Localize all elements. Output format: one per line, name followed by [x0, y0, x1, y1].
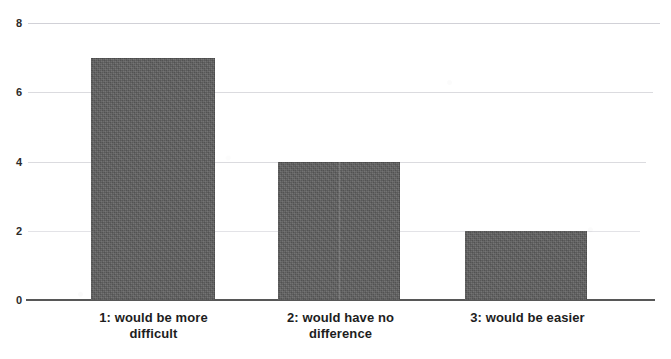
y-axis-tick-6: 6 — [6, 87, 22, 98]
y-axis-tick-0: 0 — [6, 295, 22, 306]
y-axis-tick-8: 8 — [6, 18, 22, 29]
bar-category-1 — [91, 58, 215, 300]
bar-chart: 8 6 4 2 0 1: would be more difficult 2: … — [0, 0, 671, 359]
y-axis-tick-4: 4 — [6, 157, 22, 168]
bar-category-2 — [278, 162, 400, 301]
x-axis-label-category-3-line-1: 3: would be easier — [470, 310, 585, 325]
x-axis-label-category-1-line-2: difficult — [66, 326, 241, 342]
x-axis-label-category-2: 2: would have no difference — [253, 310, 428, 342]
x-axis-label-category-3: 3: would be easier — [440, 310, 615, 326]
x-axis-label-category-1: 1: would be more difficult — [66, 310, 241, 342]
x-axis-label-category-2-line-1: 2: would have no — [287, 310, 394, 325]
bar-category-3 — [465, 231, 587, 300]
y-axis-tick-2: 2 — [6, 226, 22, 237]
gridline-8 — [28, 23, 660, 24]
x-axis-label-category-1-line-1: 1: would be more — [99, 310, 208, 325]
x-axis-label-category-2-line-2: difference — [253, 326, 428, 342]
